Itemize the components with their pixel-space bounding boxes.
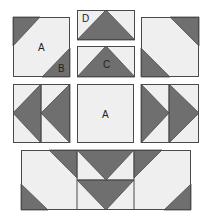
bottom-band (21, 150, 191, 210)
block-d: D (77, 10, 135, 40)
block-label: A (102, 109, 109, 120)
block-label: D (82, 13, 89, 24)
block-a-top-left: AB (13, 17, 70, 77)
block-right-geese (141, 84, 199, 143)
quilt-diagram: ABDCA (0, 0, 209, 220)
block-label: C (103, 59, 110, 70)
block-label: A (38, 42, 45, 53)
block-left-geese (13, 84, 70, 143)
block-top-right (141, 17, 199, 77)
block-label: B (58, 63, 65, 74)
block-center-a: A (77, 84, 134, 143)
block-c: C (77, 46, 135, 77)
